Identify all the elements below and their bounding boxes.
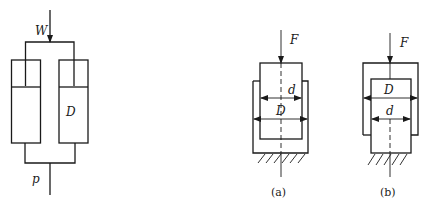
inner-diameter-label-a: d [288,83,296,97]
diagram-canvas: W D p F d D (a) [0,0,427,207]
caption-a: (a) [271,186,286,199]
diameter-label-d: D [65,105,76,119]
figure-a: F d D (a) [253,30,308,199]
ground-hatch-a [258,154,305,163]
load-label-w: W [35,24,49,38]
pressure-label-p: p [32,172,40,186]
figure-b: F D d (b) [363,33,418,199]
force-label-a: F [289,33,299,47]
outer-diameter-label-a: D [275,104,286,118]
outer-diameter-label-b: D [383,83,394,97]
supply-pipe [25,143,75,163]
caption-b: (b) [380,186,396,199]
twin-cylinder-figure: W D p [12,10,89,195]
force-label-b: F [399,36,409,50]
top-yoke [26,42,75,86]
inner-diameter-label-b: d [386,104,394,118]
ground-hatch-b [368,154,407,165]
